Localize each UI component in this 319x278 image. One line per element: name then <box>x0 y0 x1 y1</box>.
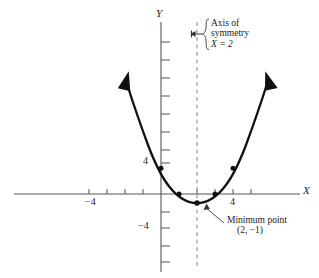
x-axis-ticks <box>89 189 251 194</box>
axis-of-symmetry-annotation: Axis of symmetry X = 2 <box>211 18 249 49</box>
y-axis-ticks <box>161 42 170 262</box>
annotation-brace <box>203 19 210 50</box>
parabola-figure: Y X −4 4 4 −4 Axis of symmetry X = 2 Min… <box>0 0 319 278</box>
y-axis-label: Y <box>156 8 162 20</box>
minimum-point-annotation: Minimum point (2, −1) <box>227 215 287 236</box>
data-point-3-0 <box>213 192 218 197</box>
axis-of-symmetry-line1: Axis of <box>211 18 249 28</box>
y-tick-label-minus-4: −4 <box>138 221 149 232</box>
data-point-0-3 <box>159 166 164 171</box>
data-point-4-3 <box>231 166 236 171</box>
axis-of-symmetry-line2: symmetry <box>211 28 249 38</box>
data-point-vertex <box>194 200 199 205</box>
minimum-point-coordinates: (2, −1) <box>227 225 287 235</box>
graph-canvas <box>0 0 319 278</box>
y-tick-label-4: 4 <box>143 156 148 167</box>
curve-left-arrowhead <box>118 70 136 92</box>
minimum-point-leader <box>204 204 225 224</box>
x-axis-label: X <box>303 185 310 197</box>
annotation-leader-arrow <box>190 31 202 38</box>
x-tick-label-4: 4 <box>230 197 235 208</box>
axis-of-symmetry-equation: X = 2 <box>211 39 249 49</box>
minimum-point-title: Minimum point <box>227 215 287 225</box>
curve-right-arrowhead <box>260 69 278 91</box>
data-point-1-0 <box>177 192 182 197</box>
x-tick-label-minus-4: −4 <box>85 197 96 208</box>
curve-data-points <box>159 166 236 206</box>
